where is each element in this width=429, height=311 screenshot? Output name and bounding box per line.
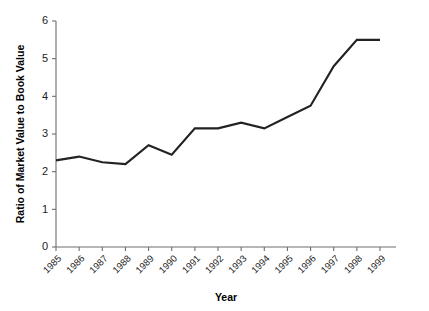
x-tick-label: 1992 <box>203 253 226 276</box>
y-axis-title: Ratio of Market Value to Book Value <box>14 45 26 224</box>
x-tick-label: 1994 <box>249 253 272 276</box>
y-tick-label: 1 <box>42 203 48 215</box>
x-tick-group: 1985198619871988198919901991199219931994… <box>41 247 388 275</box>
x-tick-label: 1986 <box>64 253 87 276</box>
y-tick-label: 3 <box>42 127 48 139</box>
data-series-line <box>56 40 380 164</box>
y-tick-label: 0 <box>42 240 48 252</box>
x-tick-label: 1997 <box>318 253 341 276</box>
x-tick-label: 1988 <box>110 253 133 276</box>
chart-canvas: 0123456 19851986198719881989199019911992… <box>0 0 429 311</box>
x-tick-label: 1998 <box>342 253 365 276</box>
x-tick-label: 1999 <box>365 253 388 276</box>
x-tick-label: 1989 <box>133 253 156 276</box>
x-tick-label: 1987 <box>87 253 110 276</box>
x-tick-label: 1985 <box>41 253 64 276</box>
y-tick-label: 6 <box>42 14 48 26</box>
x-tick-label: 1995 <box>272 253 295 276</box>
x-tick-label: 1991 <box>180 253 203 276</box>
x-axis-title: Year <box>215 291 237 303</box>
x-tick-label: 1993 <box>226 253 249 276</box>
x-tick-label: 1990 <box>156 253 179 276</box>
x-tick-label: 1996 <box>295 253 318 276</box>
y-tick-group: 0123456 <box>42 14 56 252</box>
y-tick-label: 2 <box>42 165 48 177</box>
y-tick-label: 4 <box>42 90 48 102</box>
y-tick-label: 5 <box>42 52 48 64</box>
chart-figure: 0123456 19851986198719881989199019911992… <box>0 0 429 311</box>
